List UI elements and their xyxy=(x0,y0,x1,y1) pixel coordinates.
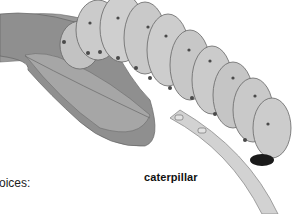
caption-label: caterpillar xyxy=(144,171,198,183)
caterpillar-head xyxy=(250,154,274,166)
partial-text: oices: xyxy=(0,176,30,190)
